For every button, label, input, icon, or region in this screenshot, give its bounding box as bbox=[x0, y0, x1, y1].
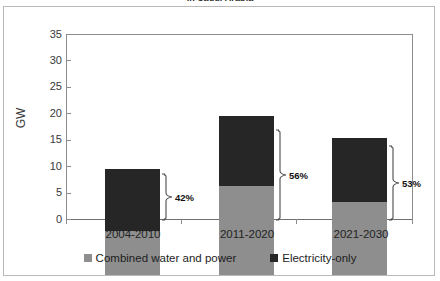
y-tick-25 bbox=[66, 87, 71, 88]
curly-brace-icon bbox=[387, 145, 401, 221]
legend-item-combined-water-and-power: Combined water and power bbox=[84, 252, 237, 264]
legend-label: Combined water and power bbox=[96, 252, 237, 264]
bar-group-2021-2030 bbox=[332, 63, 387, 275]
bracket-annotation-53: 53% bbox=[387, 145, 427, 221]
bar-segment-electricity-only bbox=[105, 169, 160, 230]
y-axis-label: 0 bbox=[22, 214, 62, 225]
y-axis-label: 10 bbox=[22, 161, 62, 172]
y-axis-label: 5 bbox=[22, 187, 62, 198]
x-axis-label-2021-2030: 2021-2030 bbox=[316, 228, 406, 240]
y-axis-label: 25 bbox=[22, 81, 62, 92]
figure-frame: 35 30 25 20 15 10 5 0 GW 42% 56% bbox=[3, 6, 435, 276]
legend-item-electricity-only: Electricity-only bbox=[270, 252, 356, 264]
x-axis-label-2004-2010: 2004-2010 bbox=[88, 228, 178, 240]
y-tick-5 bbox=[66, 193, 71, 194]
x-axis-label-2011-2020: 2011-2020 bbox=[202, 228, 292, 240]
legend-swatch-icon bbox=[270, 254, 278, 262]
y-axis-label: 30 bbox=[22, 55, 62, 66]
bar-segment-electricity-only bbox=[332, 138, 387, 203]
bar-group-2004-2010 bbox=[105, 63, 160, 275]
legend-swatch-icon bbox=[84, 254, 92, 262]
bracket-label: 42% bbox=[175, 192, 194, 203]
legend-label: Electricity-only bbox=[282, 252, 356, 264]
bracket-annotation-56: 56% bbox=[274, 129, 314, 221]
x-tick bbox=[181, 219, 182, 224]
y-tick-30 bbox=[66, 60, 71, 61]
bracket-label: 53% bbox=[402, 178, 421, 189]
y-axis-title: GW bbox=[14, 98, 28, 138]
y-tick-35 bbox=[66, 34, 71, 35]
bar-group-2011-2020 bbox=[219, 63, 274, 275]
y-axis-labels: 35 30 25 20 15 10 5 0 bbox=[16, 7, 62, 281]
x-tick bbox=[412, 219, 413, 224]
x-tick bbox=[296, 219, 297, 224]
y-axis-label: 20 bbox=[22, 108, 62, 119]
x-tick bbox=[66, 219, 67, 224]
curly-brace-icon bbox=[274, 129, 288, 221]
y-tick-10 bbox=[66, 166, 71, 167]
bar-segment-electricity-only bbox=[219, 116, 274, 186]
y-axis-label: 35 bbox=[22, 29, 62, 40]
chart-title: in Saudi Arabia bbox=[0, 0, 440, 2]
chart-legend: Combined water and power Electricity-onl… bbox=[0, 252, 440, 264]
y-axis-label: 15 bbox=[22, 134, 62, 145]
y-tick-15 bbox=[66, 140, 71, 141]
y-tick-20 bbox=[66, 113, 71, 114]
curly-brace-icon bbox=[160, 173, 174, 221]
bracket-annotation-42: 42% bbox=[160, 173, 200, 221]
bracket-label: 56% bbox=[289, 170, 308, 181]
